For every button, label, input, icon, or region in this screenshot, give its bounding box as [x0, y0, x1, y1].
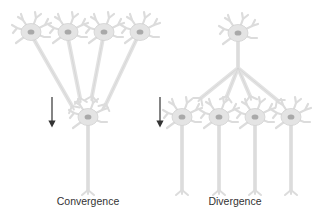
- neural-circuits-diagram: [0, 0, 328, 217]
- presynaptic-neuron: [219, 13, 258, 44]
- postsynaptic-neuron: [69, 97, 108, 128]
- postsynaptic-neuron: [163, 97, 202, 128]
- presynaptic-neuron: [12, 12, 51, 43]
- presynaptic-neuron: [121, 12, 160, 43]
- postsynaptic-neuron: [200, 97, 239, 128]
- presynaptic-neuron: [85, 12, 124, 43]
- divergence-panel: [160, 13, 311, 195]
- postsynaptic-neuron: [272, 97, 311, 128]
- postsynaptic-neuron: [236, 97, 275, 128]
- divergence-label: Divergence: [175, 195, 295, 207]
- presynaptic-neuron: [49, 12, 88, 43]
- convergence-label: Convergence: [28, 195, 148, 207]
- convergence-panel: [12, 12, 160, 195]
- convergent-axons: [32, 36, 138, 106]
- divergent-axons: [201, 68, 277, 100]
